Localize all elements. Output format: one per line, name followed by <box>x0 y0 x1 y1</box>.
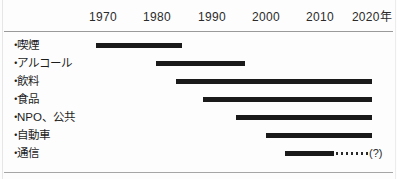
row-label-5: ・自動車 <box>10 126 50 144</box>
row-label-text: NPO、公共 <box>17 111 75 123</box>
bullet-marker-icon: ・ <box>10 108 17 126</box>
row-label-text: 自動車 <box>17 129 50 141</box>
timeline-row: ・食品 <box>0 90 397 108</box>
bullet-marker-icon: ・ <box>10 90 17 108</box>
year-tick-1990: 1990 <box>198 8 226 26</box>
timeline-chart: 197019801990200020102020年 ・喫煙・アルコール・飲料・食… <box>0 0 397 179</box>
year-tick-1980: 1980 <box>143 8 171 26</box>
row-label-0: ・喫煙 <box>10 36 39 54</box>
row-label-4: ・NPO、公共 <box>10 108 75 126</box>
timeline-bar-1 <box>156 61 245 66</box>
row-label-text: 通信 <box>17 147 39 159</box>
timeline-row: ・アルコール <box>0 54 397 72</box>
timeline-row: ・通信(?) <box>0 144 397 162</box>
timeline-bar-6 <box>285 151 334 156</box>
bullet-marker-icon: ・ <box>10 36 17 54</box>
timeline-row: ・NPO、公共 <box>0 108 397 126</box>
timeline-bar-3 <box>203 97 372 102</box>
timeline-bar-2 <box>176 79 372 84</box>
row-label-6: ・通信 <box>10 144 39 162</box>
year-axis-header: 197019801990200020102020年 <box>0 8 397 28</box>
year-tick-1970: 1970 <box>89 8 117 26</box>
timeline-bar-0 <box>96 43 182 48</box>
timeline-row: ・自動車 <box>0 126 397 144</box>
timeline-bar-4 <box>236 115 372 120</box>
timeline-rows: ・喫煙・アルコール・飲料・食品・NPO、公共・自動車・通信(?) <box>0 36 397 162</box>
year-tick-2000: 2000 <box>252 8 280 26</box>
axis-rule-top <box>4 31 393 32</box>
row-label-text: アルコール <box>17 57 72 69</box>
axis-rule-bottom <box>4 172 393 173</box>
timeline-row: ・飲料 <box>0 72 397 90</box>
row-label-text: 飲料 <box>17 75 39 87</box>
bullet-marker-icon: ・ <box>10 144 17 162</box>
bullet-marker-icon: ・ <box>10 54 17 72</box>
row-label-text: 食品 <box>17 93 39 105</box>
timeline-bar-5 <box>266 133 372 138</box>
row-label-2: ・飲料 <box>10 72 39 90</box>
row-label-1: ・アルコール <box>10 54 72 72</box>
bullet-marker-icon: ・ <box>10 72 17 90</box>
bullet-marker-icon: ・ <box>10 126 17 144</box>
timeline-row: ・喫煙 <box>0 36 397 54</box>
timeline-bar-projection-6 <box>336 152 368 155</box>
timeline-bar-note: (?) <box>369 145 382 161</box>
year-tick-2010: 2010 <box>306 8 334 26</box>
year-tick-2020: 2020年 <box>352 8 392 26</box>
row-label-3: ・食品 <box>10 90 39 108</box>
row-label-text: 喫煙 <box>17 39 39 51</box>
